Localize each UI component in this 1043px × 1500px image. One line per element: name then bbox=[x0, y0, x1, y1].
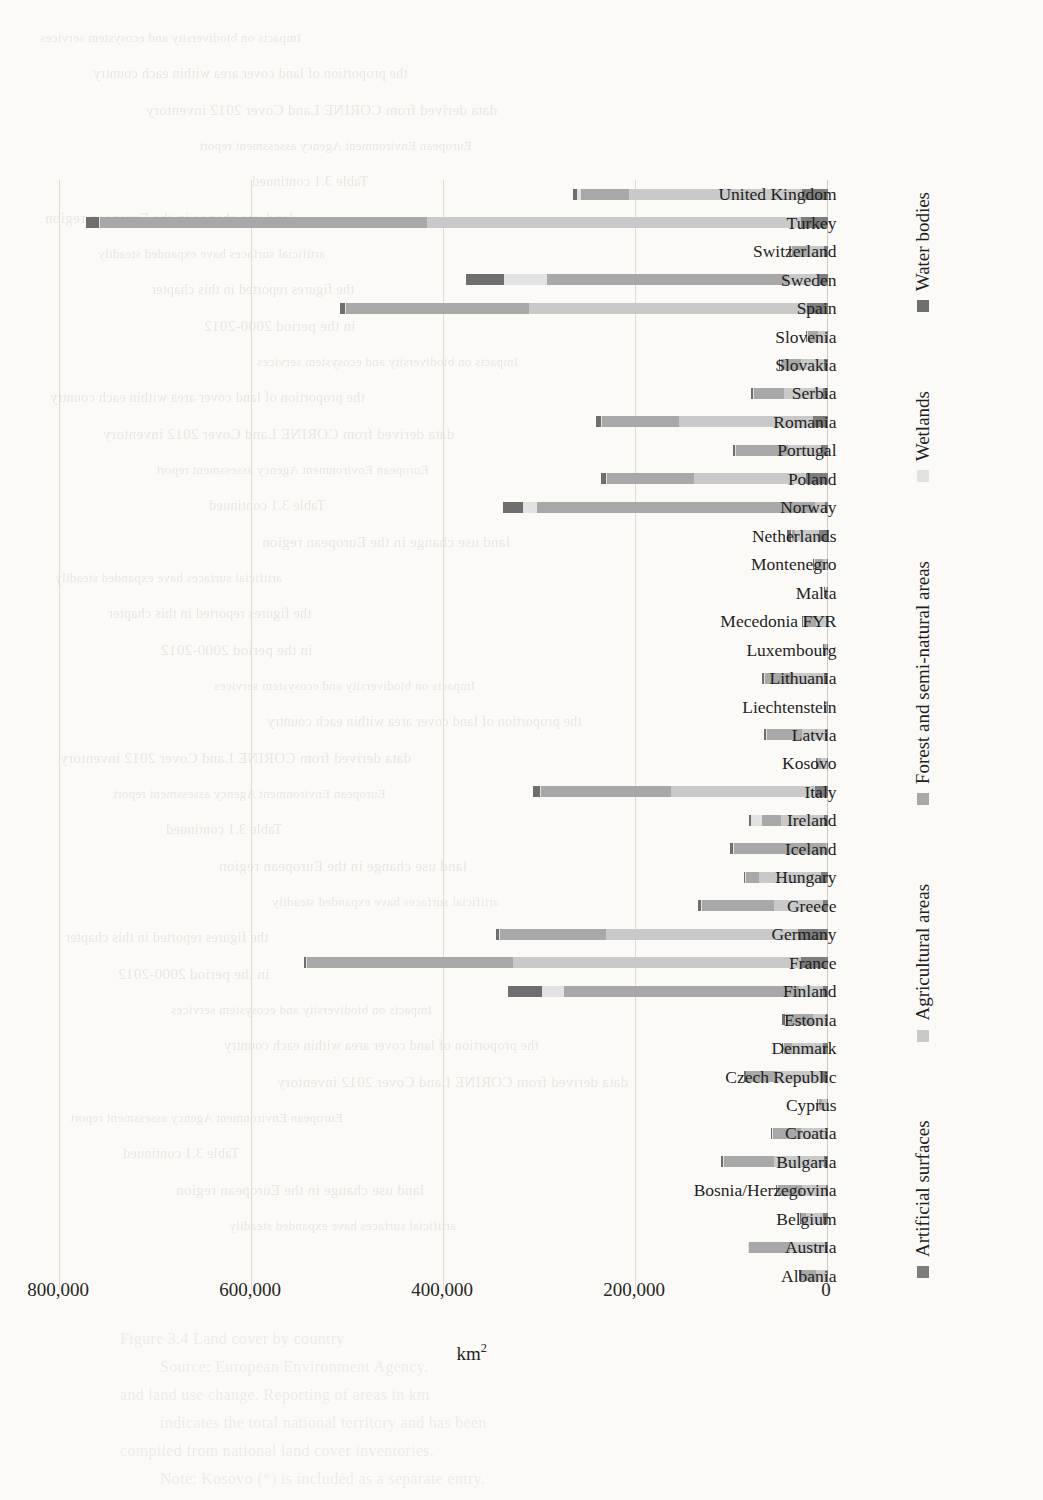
category-axis-label: Belgium bbox=[536, 1208, 836, 1229]
legend-item[interactable]: Wetlands bbox=[912, 391, 934, 482]
bleed-caption-line: Note: Kosovo (*) is included as a separa… bbox=[160, 1470, 485, 1488]
category-axis-label: Slovenia bbox=[536, 326, 836, 347]
value-tick-label: 800,000 bbox=[0, 1279, 116, 1301]
category-axis-label: Germany bbox=[536, 924, 836, 945]
category-axis-label: Luxembourg bbox=[536, 639, 836, 660]
legend-item[interactable]: Agricultural areas bbox=[912, 884, 934, 1042]
category-axis-label: Poland bbox=[536, 468, 836, 489]
legend-label: Artificial surfaces bbox=[912, 1120, 934, 1257]
category-axis-label: Malta bbox=[536, 582, 836, 603]
category-axis-label: Romania bbox=[536, 411, 836, 432]
category-axis-label: Italy bbox=[536, 781, 836, 802]
chart-legend: Artificial surfacesAgricultural areasFor… bbox=[912, 180, 934, 1290]
category-axis-label: Switzerland bbox=[536, 241, 836, 262]
gridline bbox=[443, 180, 444, 1290]
bar-segment bbox=[306, 957, 512, 968]
legend-label: Wetlands bbox=[912, 391, 934, 461]
category-axis-label: Mecedonia FYR bbox=[536, 611, 836, 632]
category-axis-label: Ireland bbox=[536, 810, 836, 831]
legend-swatch-icon bbox=[917, 1266, 929, 1278]
category-axis-label: Liechtenstein bbox=[536, 696, 836, 717]
category-axis-label: Netherlands bbox=[536, 525, 836, 546]
value-tick-label: 400,000 bbox=[384, 1279, 500, 1301]
category-axis-label: Bosnia/Herzegovina bbox=[536, 1180, 836, 1201]
bar-segment bbox=[346, 303, 528, 314]
legend-label: Water bodies bbox=[912, 192, 934, 291]
legend-item[interactable]: Artificial surfaces bbox=[912, 1120, 934, 1278]
bar-segment bbox=[86, 217, 99, 228]
category-axis-label: Estonia bbox=[536, 1009, 836, 1030]
legend-item[interactable]: Forest and semi-natural areas bbox=[912, 561, 934, 805]
category-axis-label: Sweden bbox=[536, 269, 836, 290]
value-tick-label: 600,000 bbox=[192, 1279, 308, 1301]
category-axis-label: United Kingdom bbox=[536, 184, 836, 205]
category-axis-label: Portugal bbox=[536, 440, 836, 461]
category-axis-label: Albania bbox=[536, 1265, 836, 1286]
category-axis-label: Latvia bbox=[536, 725, 836, 746]
category-axis-label: Lithuania bbox=[536, 668, 836, 689]
bar-segment bbox=[522, 502, 536, 513]
bar-segment bbox=[495, 929, 498, 940]
category-axis-label: Slovakia bbox=[536, 355, 836, 376]
category-axis-label: Norway bbox=[536, 497, 836, 518]
legend-item[interactable]: Water bodies bbox=[912, 192, 934, 312]
gridline bbox=[59, 180, 60, 1290]
legend-swatch-icon bbox=[917, 793, 929, 805]
bar-segment bbox=[340, 303, 345, 314]
bleed-text-line: Impacts on biodiversity and ecosystem se… bbox=[40, 30, 301, 46]
category-axis-label: Croatia bbox=[536, 1123, 836, 1144]
category-axis-label: Finland bbox=[536, 981, 836, 1002]
legend-swatch-icon bbox=[917, 1030, 929, 1042]
gridline bbox=[251, 180, 252, 1290]
category-axis-label: Czech Republic bbox=[536, 1066, 836, 1087]
category-axis-label: Bulgaria bbox=[536, 1151, 836, 1172]
category-axis-label: Serbia bbox=[536, 383, 836, 404]
category-axis-label: Kosovo bbox=[536, 753, 836, 774]
category-axis-label: Hungary bbox=[536, 867, 836, 888]
chart-stage: 0200,000400,000600,000800,000 km2 Albani… bbox=[32, 50, 1012, 1450]
category-axis-label: Austria bbox=[536, 1237, 836, 1258]
bar-segment bbox=[100, 217, 426, 228]
category-axis-label: Turkey bbox=[536, 212, 836, 233]
category-axis-label: Iceland bbox=[536, 838, 836, 859]
value-axis-title: km2 bbox=[416, 1341, 526, 1364]
legend-swatch-icon bbox=[917, 470, 929, 482]
category-axis-label: Denmark bbox=[536, 1038, 836, 1059]
category-axis-label: Greece bbox=[536, 895, 836, 916]
legend-swatch-icon bbox=[917, 300, 929, 312]
chart-plot-wrapper: 0200,000400,000600,000800,000 km2 Albani… bbox=[32, 50, 1012, 1450]
category-axis-label: Spain bbox=[536, 298, 836, 319]
legend-label: Forest and semi-natural areas bbox=[912, 561, 934, 784]
category-axis-label: France bbox=[536, 952, 836, 973]
legend-label: Agricultural areas bbox=[912, 884, 934, 1021]
category-axis-label: Montenegro bbox=[536, 554, 836, 575]
bar-segment bbox=[465, 274, 503, 285]
bar-segment bbox=[503, 502, 522, 513]
category-axis-label: Cyprus bbox=[536, 1095, 836, 1116]
